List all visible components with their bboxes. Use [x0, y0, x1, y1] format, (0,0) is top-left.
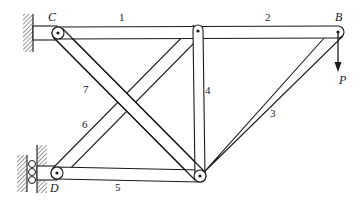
member-label-7: 7 [83, 83, 89, 95]
member-label-6: 6 [82, 118, 88, 130]
member-label-1: 1 [119, 11, 125, 23]
pin-bottom-middle [194, 170, 206, 182]
pin-c [52, 27, 64, 39]
member-5 [51, 167, 206, 182]
pin-top-middle [196, 29, 199, 32]
member-4 [193, 25, 205, 176]
member-label-5: 5 [115, 181, 121, 193]
member-3 [196, 28, 343, 181]
joint-label-c: C [48, 10, 57, 24]
joint-label-d: D [49, 181, 59, 195]
pin-d [51, 167, 63, 179]
truss-diagram: C B D P 1 2 3 4 5 6 7 [0, 0, 360, 217]
member-label-2: 2 [265, 11, 271, 23]
load-label-p: P [338, 73, 347, 87]
member-label-3: 3 [270, 107, 276, 119]
member-label-4: 4 [205, 84, 211, 96]
joint-label-b: B [335, 10, 343, 24]
